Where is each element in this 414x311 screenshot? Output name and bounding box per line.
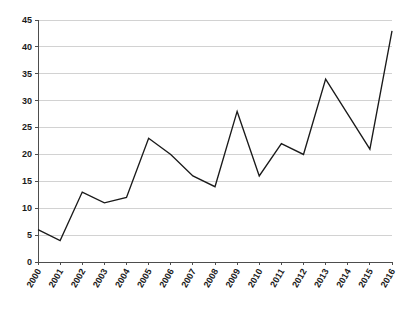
x-tick-label-2005: 2005 bbox=[135, 267, 154, 289]
x-tick-label-2001: 2001 bbox=[47, 267, 66, 289]
x-tick-label-2007: 2007 bbox=[179, 267, 198, 289]
x-tick-label-2016: 2016 bbox=[379, 267, 398, 289]
y-tick-label-45: 45 bbox=[22, 15, 32, 25]
y-tick-label-15: 15 bbox=[22, 176, 32, 186]
x-tick-label-2009: 2009 bbox=[224, 267, 243, 289]
x-tick-label-2012: 2012 bbox=[290, 267, 309, 289]
x-tick-label-2013: 2013 bbox=[312, 267, 331, 289]
x-tick-label-2014: 2014 bbox=[334, 267, 353, 289]
x-tick-label-2010: 2010 bbox=[246, 267, 265, 289]
data-series-line bbox=[38, 31, 392, 241]
x-tick-label-2002: 2002 bbox=[69, 267, 88, 289]
x-tick-label-2003: 2003 bbox=[91, 267, 110, 289]
y-tick-label-20: 20 bbox=[22, 149, 32, 159]
y-tick-label-0: 0 bbox=[27, 257, 32, 267]
x-tick-label-2008: 2008 bbox=[202, 267, 221, 289]
y-axis-tick-labels: 051015202530354045 bbox=[22, 15, 32, 267]
y-tick-label-10: 10 bbox=[22, 203, 32, 213]
x-axis-tick-labels: 2000200120022003200420052006200720082009… bbox=[25, 267, 398, 289]
y-tick-label-5: 5 bbox=[27, 230, 32, 240]
x-tick-label-2015: 2015 bbox=[356, 267, 375, 289]
line-chart: 051015202530354045 200020012002200320042… bbox=[0, 0, 414, 311]
x-tick-label-2000: 2000 bbox=[25, 267, 44, 289]
y-tick-label-40: 40 bbox=[22, 42, 32, 52]
x-tick-label-2004: 2004 bbox=[113, 267, 132, 289]
gridlines-group bbox=[38, 20, 392, 235]
y-tick-label-25: 25 bbox=[22, 122, 32, 132]
y-tick-label-30: 30 bbox=[22, 96, 32, 106]
y-tick-label-35: 35 bbox=[22, 69, 32, 79]
x-tick-label-2011: 2011 bbox=[268, 267, 286, 289]
chart-canvas: 051015202530354045 200020012002200320042… bbox=[0, 0, 414, 311]
x-tick-label-2006: 2006 bbox=[157, 267, 176, 289]
